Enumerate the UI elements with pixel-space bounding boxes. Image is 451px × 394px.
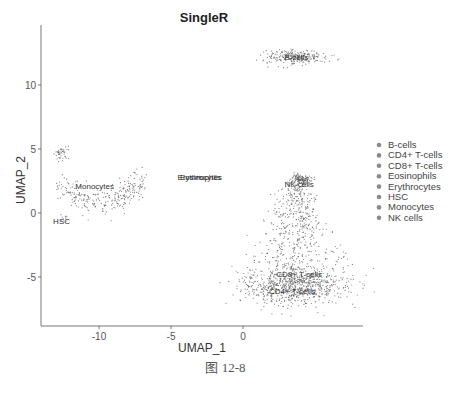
data-point (306, 50, 307, 51)
data-point (328, 293, 329, 294)
data-point (82, 215, 83, 216)
data-point (282, 215, 283, 216)
data-point (274, 213, 275, 214)
data-point (302, 284, 303, 285)
data-point (248, 286, 249, 287)
data-point (323, 281, 324, 282)
data-point (302, 176, 303, 177)
data-point (321, 280, 322, 281)
data-point (253, 298, 254, 299)
data-point (300, 280, 301, 281)
data-point (354, 307, 355, 308)
data-point (302, 237, 303, 238)
y-tick-label: 0 (30, 208, 36, 219)
data-point (333, 252, 334, 253)
data-point (318, 223, 319, 224)
x-tick-label: -10 (92, 331, 107, 342)
data-point (281, 206, 282, 207)
data-point (271, 313, 272, 314)
data-point (79, 195, 80, 196)
data-point (146, 174, 147, 175)
data-point (303, 280, 304, 281)
data-point (110, 220, 111, 221)
data-point (294, 63, 295, 64)
data-point (343, 257, 344, 258)
data-point (252, 269, 253, 270)
data-point (323, 268, 324, 269)
data-point (309, 54, 310, 55)
data-point (331, 276, 332, 277)
data-point (347, 258, 348, 259)
data-point (278, 244, 279, 245)
data-point (294, 300, 295, 301)
data-point (302, 204, 303, 205)
data-point (119, 187, 120, 188)
data-point (288, 193, 289, 194)
data-point (292, 258, 293, 259)
data-point (309, 175, 310, 176)
data-point (142, 181, 143, 182)
data-point (301, 216, 302, 217)
data-point (316, 60, 317, 61)
data-point (262, 279, 263, 280)
data-point (290, 48, 291, 49)
data-point (260, 292, 261, 293)
data-point (302, 203, 303, 204)
data-point (373, 268, 374, 269)
data-point (284, 266, 285, 267)
data-point (326, 288, 327, 289)
data-point (275, 214, 276, 215)
data-point (337, 286, 338, 287)
data-point (129, 188, 130, 189)
legend-swatch (377, 164, 382, 169)
data-point (299, 282, 300, 283)
data-point (108, 195, 109, 196)
data-point (267, 299, 268, 300)
data-point (323, 266, 324, 267)
x-tick-label: 0 (240, 331, 246, 342)
data-point (310, 243, 311, 244)
data-point (294, 193, 295, 194)
data-point (143, 183, 144, 184)
data-point (275, 204, 276, 205)
data-point (245, 293, 246, 294)
data-point (65, 156, 66, 157)
data-point (293, 283, 294, 284)
data-point (317, 215, 318, 216)
data-point (291, 64, 292, 65)
data-point (273, 280, 274, 281)
data-point (61, 149, 62, 150)
data-point (316, 53, 317, 54)
data-point (277, 265, 278, 266)
data-point (256, 289, 257, 290)
cluster-label: Monocytes (75, 182, 114, 191)
data-point (285, 231, 286, 232)
data-point (267, 294, 268, 295)
data-point (134, 190, 135, 191)
data-point (303, 227, 304, 228)
data-point (284, 264, 285, 265)
data-point (282, 282, 283, 283)
data-point (278, 202, 279, 203)
data-point (269, 261, 270, 262)
data-point (289, 224, 290, 225)
data-point (314, 197, 315, 198)
data-point (272, 257, 273, 258)
data-point (327, 292, 328, 293)
data-point (263, 293, 264, 294)
data-point (83, 200, 84, 201)
data-point (72, 186, 73, 187)
data-point (320, 282, 321, 283)
data-point (292, 265, 293, 266)
data-point (331, 279, 332, 280)
data-point (132, 192, 133, 193)
legend-swatch (377, 174, 382, 179)
data-point (75, 203, 76, 204)
data-point (280, 214, 281, 215)
x-ticks: -10-50 (92, 326, 246, 342)
data-point (286, 297, 287, 298)
data-point (314, 179, 315, 180)
data-point (293, 260, 294, 261)
data-point (280, 303, 281, 304)
data-point (351, 284, 352, 285)
